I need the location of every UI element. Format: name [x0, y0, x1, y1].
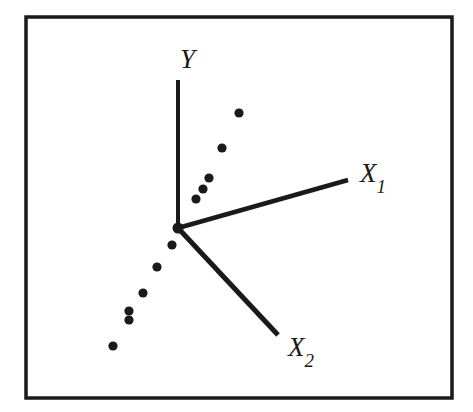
data-point: [108, 341, 117, 350]
figure-root: YX1X2: [0, 0, 473, 412]
figure-background: [0, 0, 473, 412]
data-point: [124, 306, 133, 315]
origin-point: [173, 223, 184, 234]
data-point: [138, 288, 147, 297]
data-point: [204, 173, 213, 182]
axis-label-subscript: 1: [377, 176, 387, 197]
data-point: [198, 184, 207, 193]
data-point: [167, 240, 176, 249]
data-point: [124, 315, 133, 324]
data-point: [217, 143, 226, 152]
axis-label-subscript: 2: [305, 350, 315, 371]
figure-svg: YX1X2: [0, 0, 473, 412]
data-point: [191, 194, 200, 203]
data-point: [234, 108, 243, 117]
data-point: [152, 262, 161, 271]
